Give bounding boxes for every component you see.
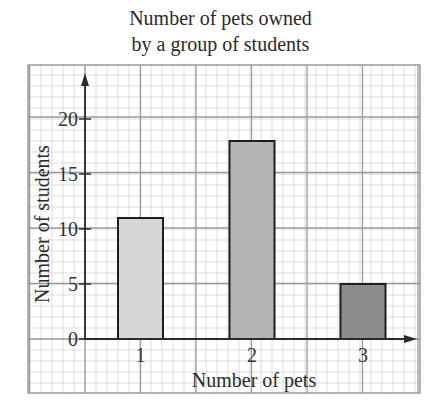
bar-3 xyxy=(341,284,386,339)
tick-labels: 05101520123 xyxy=(58,108,368,366)
bar-1 xyxy=(118,218,163,339)
y-axis-label: Number of students xyxy=(31,145,53,303)
x-tick-label: 3 xyxy=(358,344,368,366)
y-tick-label: 10 xyxy=(58,218,78,240)
bar-chart: 05101520123 Number of pets Number of stu… xyxy=(0,0,441,413)
y-tick-label: 0 xyxy=(68,328,78,350)
y-tick-label: 5 xyxy=(68,273,78,295)
x-tick-label: 1 xyxy=(136,344,146,366)
x-tick-label: 2 xyxy=(247,344,257,366)
y-tick-label: 15 xyxy=(58,163,78,185)
y-tick-label: 20 xyxy=(58,108,78,130)
x-axis-label: Number of pets xyxy=(192,369,317,392)
bar-2 xyxy=(230,141,275,339)
